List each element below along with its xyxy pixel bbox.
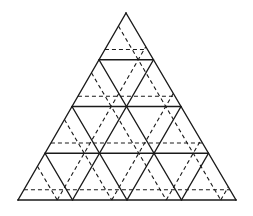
- dashed-line-diagonal-up: [112, 93, 174, 200]
- solid-line-diagonal-up: [182, 153, 209, 200]
- dashed-line-diagonal-down: [64, 120, 111, 200]
- dashed-line-diagonal-up: [221, 187, 229, 200]
- dashed-line-diagonal-up: [166, 140, 201, 200]
- dashed-line-diagonal-up: [57, 47, 146, 200]
- dashed-line-diagonal-down: [91, 73, 166, 200]
- triangle-grid-diagram: [0, 0, 253, 216]
- solid-line-diagonal-up: [73, 60, 154, 200]
- solid-line-diagonal-down: [45, 153, 73, 200]
- dashed-grid: [24, 26, 230, 200]
- dashed-line-diagonal-down: [37, 166, 57, 200]
- solid-line-diagonal-down: [99, 60, 182, 200]
- dashed-line-diagonal-down: [118, 26, 220, 200]
